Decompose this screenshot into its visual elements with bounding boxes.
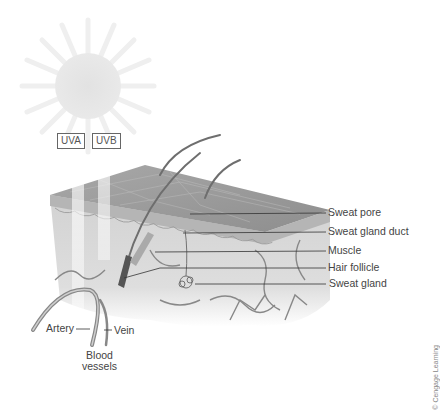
label-blood-vessels: Blood vessels [82,350,117,372]
label-vessels: vessels [82,361,117,372]
label-sweat-gland-duct: Sweat gland duct [328,226,409,237]
sun-icon [22,20,154,152]
label-hair-follicle: Hair follicle [328,262,379,273]
label-vein: Vein [114,325,134,336]
uvb-beam [98,150,110,260]
label-sweat-gland: Sweat gland [329,278,387,289]
uvb-label: UVB [92,133,121,149]
label-muscle: Muscle [328,245,361,256]
copyright-credit: © Cengage Learning [432,345,439,410]
label-sweat-pore: Sweat pore [328,207,381,218]
label-artery: Artery [46,323,74,334]
uva-label: UVA [57,133,85,149]
